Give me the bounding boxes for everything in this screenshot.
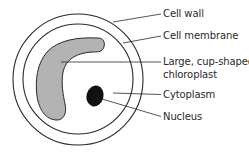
label-cell-membrane: Cell membrane <box>163 30 238 42</box>
leader-line-cytoplasm <box>113 93 161 95</box>
leader-line-cell-wall <box>113 14 161 22</box>
chloroplast-shape <box>36 38 104 120</box>
leader-line-cell-membrane <box>123 36 161 43</box>
label-nucleus: Nucleus <box>163 111 202 123</box>
label-chloroplast-line2: chloroplast <box>163 69 217 81</box>
nucleus-shape <box>84 84 106 109</box>
label-chloroplast-line1: Large, cup-shaped <box>163 56 249 68</box>
leader-line-nucleus <box>102 99 161 117</box>
cell-wall-outline <box>13 14 143 145</box>
label-cytoplasm: Cytoplasm <box>163 89 215 101</box>
label-cell-wall: Cell wall <box>163 8 204 20</box>
